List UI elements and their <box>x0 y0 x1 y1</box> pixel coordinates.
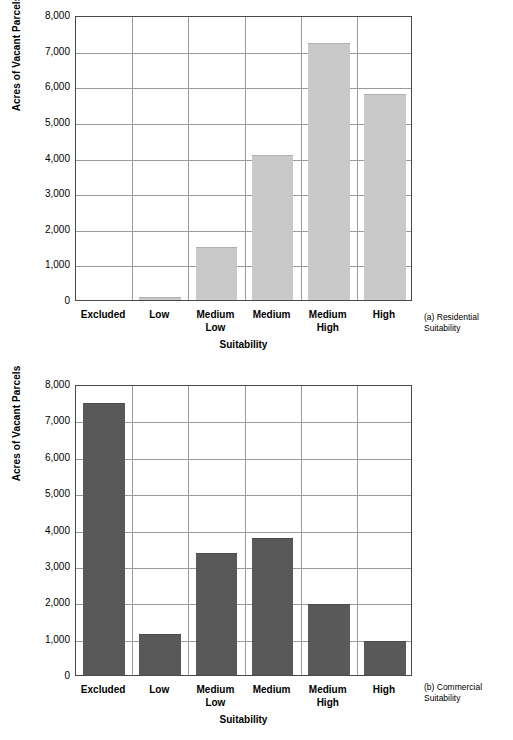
gridline-horizontal <box>76 495 411 496</box>
bar <box>252 538 294 675</box>
gridline-horizontal <box>76 568 411 569</box>
y-axis-tick-label: 3,000 <box>45 189 70 199</box>
y-axis-tick-label: 2,000 <box>45 225 70 235</box>
x-axis-title: Suitability <box>75 714 412 725</box>
x-axis-tick-label: Excluded <box>75 684 131 697</box>
y-axis-tick-label: 7,000 <box>45 47 70 57</box>
y-axis-title: Acres of Vacant Parcels <box>11 0 22 164</box>
bar <box>196 247 238 300</box>
x-axis-tick-label: Low <box>131 309 187 322</box>
plot-area <box>75 16 412 301</box>
gridline-vertical <box>245 17 246 300</box>
gridline-horizontal <box>76 53 411 54</box>
y-axis-tick-label: 0 <box>64 296 70 306</box>
gridline-vertical <box>132 386 133 675</box>
figure-caption: (b) Commercial Suitability <box>424 682 513 704</box>
gridline-horizontal <box>76 88 411 89</box>
bar <box>83 403 125 675</box>
plot-area <box>75 385 412 676</box>
y-axis-tick-label: 4,000 <box>45 526 70 536</box>
bar <box>364 94 406 300</box>
bar <box>308 604 350 675</box>
y-axis-tick-label: 5,000 <box>45 118 70 128</box>
y-axis-tick-label: 8,000 <box>45 380 70 390</box>
gridline-vertical <box>301 17 302 300</box>
y-axis-tick-label: 8,000 <box>45 11 70 21</box>
x-axis-tick-label: Medium <box>244 309 300 322</box>
gridline-vertical <box>357 386 358 675</box>
gridline-horizontal <box>76 195 411 196</box>
gridline-horizontal <box>76 124 411 125</box>
y-axis-tick-label: 6,000 <box>45 453 70 463</box>
gridline-horizontal <box>76 160 411 161</box>
x-axis-tick-label: Low <box>131 684 187 697</box>
gridline-vertical <box>188 17 189 300</box>
y-axis-tick-label: 0 <box>64 671 70 681</box>
bar <box>196 553 238 675</box>
bar <box>308 43 350 300</box>
x-axis-tick-label: High <box>356 684 412 697</box>
x-axis-tick-label: Medium Low <box>187 309 243 334</box>
gridline-vertical <box>357 17 358 300</box>
residential-suitability-figure: Acres of Vacant Parcels 8,0007,0006,0005… <box>0 0 513 370</box>
x-axis-tick-label: Medium High <box>300 309 356 334</box>
gridline-horizontal <box>76 459 411 460</box>
gridline-vertical <box>132 17 133 300</box>
x-axis-tick-label: Medium <box>244 684 300 697</box>
y-axis-tick-label: 7,000 <box>45 416 70 426</box>
bar <box>139 634 181 675</box>
x-axis-tick-label: High <box>356 309 412 322</box>
y-axis-tick-label: 5,000 <box>45 489 70 499</box>
bar <box>364 641 406 675</box>
x-axis-tick-label: Medium High <box>300 684 356 709</box>
gridline-horizontal <box>76 532 411 533</box>
gridline-horizontal <box>76 641 411 642</box>
gridline-horizontal <box>76 266 411 267</box>
gridline-horizontal <box>76 604 411 605</box>
x-axis-tick-label: Excluded <box>75 309 131 322</box>
y-axis-tick-label: 4,000 <box>45 154 70 164</box>
gridline-horizontal <box>76 422 411 423</box>
bar <box>252 155 294 300</box>
gridline-vertical <box>245 386 246 675</box>
bar <box>139 297 181 300</box>
x-axis-title: Suitability <box>75 339 412 350</box>
y-axis-tick-label: 2,000 <box>45 598 70 608</box>
y-axis-tick-label: 3,000 <box>45 562 70 572</box>
commercial-suitability-figure: Acres of Vacant Parcels 8,0007,0006,0005… <box>0 370 513 740</box>
x-axis-tick-label: Medium Low <box>187 684 243 709</box>
y-axis-tick-label: 6,000 <box>45 82 70 92</box>
gridline-horizontal <box>76 231 411 232</box>
gridline-vertical <box>188 386 189 675</box>
y-axis-title: Acres of Vacant Parcels <box>11 314 22 534</box>
gridline-vertical <box>301 386 302 675</box>
figure-caption: (a) Residential Suitability <box>424 312 513 334</box>
y-axis-tick-label: 1,000 <box>45 635 70 645</box>
y-axis-tick-label: 1,000 <box>45 260 70 270</box>
